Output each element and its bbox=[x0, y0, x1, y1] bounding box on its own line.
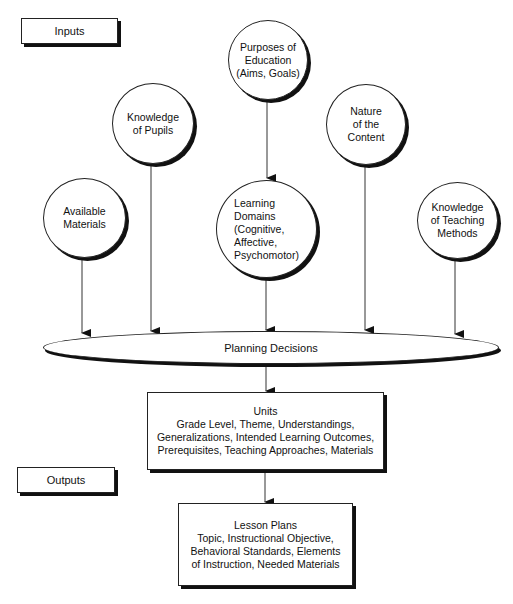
inputs-label: Inputs bbox=[21, 18, 118, 44]
units-details: Grade Level, Theme, Understandings, Gene… bbox=[157, 418, 374, 457]
learning-domains-node: Learning Domains (Cognitive, Affective, … bbox=[216, 180, 317, 278]
inputs-label-text: Inputs bbox=[55, 25, 85, 37]
outputs-label-text: Outputs bbox=[47, 474, 86, 486]
available-materials-text: Available Materials bbox=[63, 205, 106, 231]
available-materials-node: Available Materials bbox=[43, 178, 126, 258]
knowledge-of-pupils-text: Knowledge of Pupils bbox=[127, 111, 179, 137]
lesson-plans-title: Lesson Plans bbox=[234, 519, 297, 532]
nature-of-content-node: Nature of the Content bbox=[326, 84, 406, 165]
purposes-of-education-node: Purposes of Education (Aims, Goals) bbox=[228, 20, 308, 100]
units-box: Units Grade Level, Theme, Understandings… bbox=[147, 392, 384, 470]
planning-decisions-text: Planning Decisions bbox=[224, 342, 318, 354]
purposes-of-education-text: Purposes of Education (Aims, Goals) bbox=[236, 41, 300, 80]
knowledge-of-pupils-node: Knowledge of Pupils bbox=[112, 83, 194, 164]
knowledge-of-teaching-methods-node: Knowledge of Teaching Methods bbox=[417, 182, 498, 259]
learning-domains-text: Learning Domains (Cognitive, Affective, … bbox=[234, 197, 299, 262]
knowledge-of-teaching-methods-text: Knowledge of Teaching Methods bbox=[431, 201, 485, 240]
outputs-label: Outputs bbox=[17, 467, 115, 493]
planning-decisions-node: Planning Decisions bbox=[43, 331, 499, 364]
lesson-plans-box: Lesson Plans Topic, Instructional Object… bbox=[178, 503, 353, 586]
lesson-plans-details: Topic, Instructional Objective, Behavior… bbox=[191, 532, 341, 571]
units-title: Units bbox=[254, 405, 278, 418]
nature-of-content-text: Nature of the Content bbox=[348, 105, 385, 144]
